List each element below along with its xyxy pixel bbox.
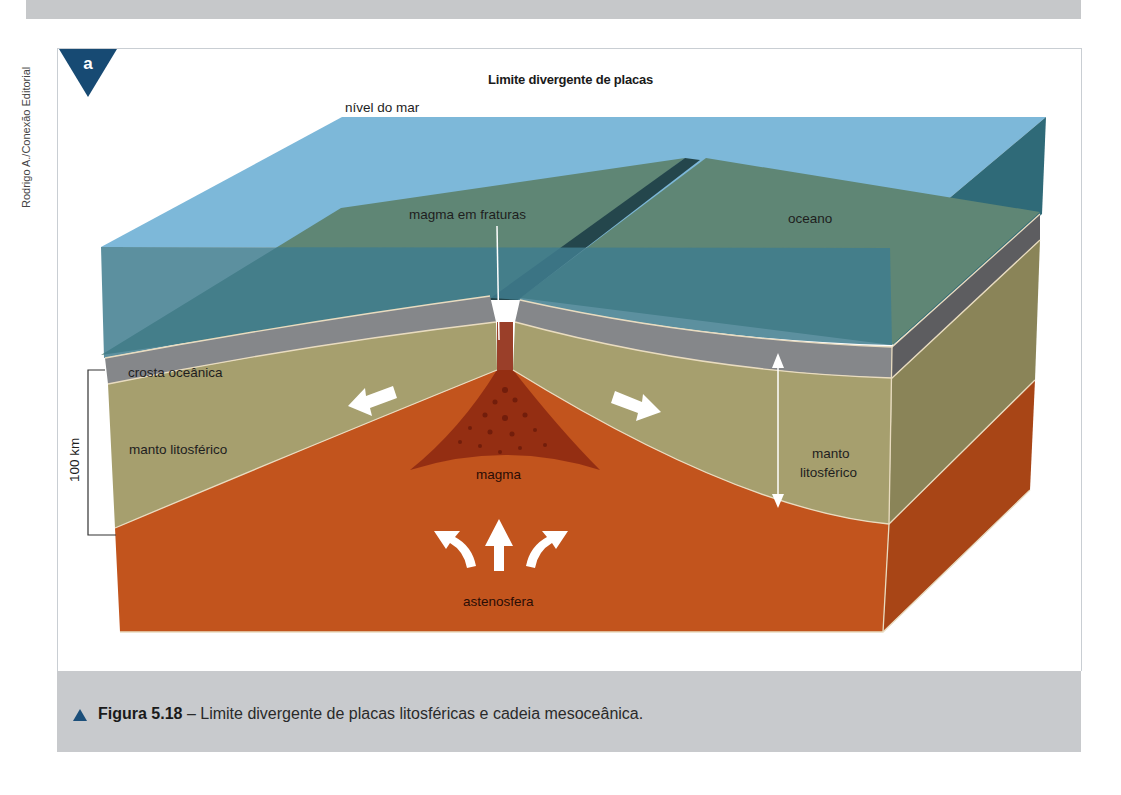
- label-ocean: oceano: [788, 211, 832, 226]
- label-sea-level: nível do mar: [345, 100, 419, 115]
- label-scale-100km: 100 km: [67, 438, 82, 482]
- figure-number: Figura 5.18: [98, 705, 182, 722]
- label-lithospheric-mantle-right-2: litosférico: [800, 465, 857, 480]
- label-magma-fractures: magma em fraturas: [409, 207, 526, 222]
- label-magma: magma: [476, 467, 521, 482]
- figure-caption: Figura 5.18 – Limite divergente de placa…: [98, 705, 643, 723]
- label-asthenosphere: astenosfera: [463, 594, 534, 609]
- diagram-title: Limite divergente de placas: [488, 72, 653, 87]
- label-oceanic-crust: crosta oceânica: [128, 365, 223, 380]
- caption-separator: –: [182, 705, 200, 722]
- label-lithospheric-mantle-left: manto litosférico: [129, 442, 227, 457]
- caption-triangle-icon: [73, 709, 87, 721]
- caption-text: Limite divergente de placas litosféricas…: [200, 705, 643, 722]
- label-lithospheric-mantle-right-1: manto: [812, 446, 850, 461]
